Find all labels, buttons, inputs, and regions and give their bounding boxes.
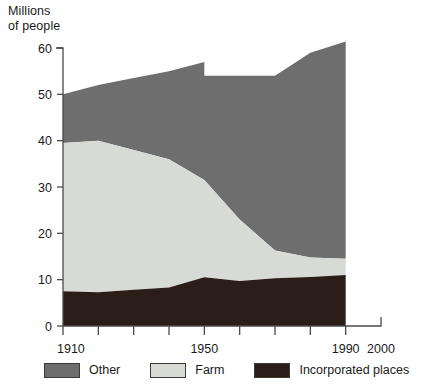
legend-item-farm: Farm (150, 363, 224, 378)
y-tick-label: 10 (38, 273, 52, 287)
chart-plot-area: 0102030405060 1910195019902000 (0, 0, 437, 392)
legend-item-incorporated: Incorporated places (254, 363, 409, 378)
x-tick-label: 1910 (57, 342, 85, 356)
x-tick-label: 2000 (367, 342, 395, 356)
chart-legend: Other Farm Incorporated places (44, 363, 409, 378)
y-tick-label: 0 (45, 320, 52, 334)
y-tick-label: 60 (38, 42, 52, 56)
y-tick-label: 50 (38, 88, 52, 102)
legend-swatch-incorporated (254, 363, 290, 378)
x-tick-label: 1990 (332, 342, 360, 356)
y-tick-label: 30 (38, 181, 52, 195)
y-axis-tick-labels: 0102030405060 (38, 42, 52, 334)
legend-swatch-farm (150, 363, 186, 378)
x-axis-ticks (63, 326, 346, 335)
area-chart: Millions of people 0102030405060 1910195… (0, 0, 437, 392)
legend-label-other: Other (89, 363, 120, 378)
x-tick-label: 1950 (190, 342, 218, 356)
legend-label-incorporated: Incorporated places (299, 363, 409, 378)
legend-item-other: Other (44, 363, 120, 378)
legend-label-farm: Farm (195, 363, 224, 378)
y-tick-label: 20 (38, 227, 52, 241)
legend-swatch-other (44, 363, 80, 378)
x-axis-tick-labels: 1910195019902000 (57, 342, 395, 356)
y-axis-ticks (57, 48, 63, 326)
y-tick-label: 40 (38, 134, 52, 148)
